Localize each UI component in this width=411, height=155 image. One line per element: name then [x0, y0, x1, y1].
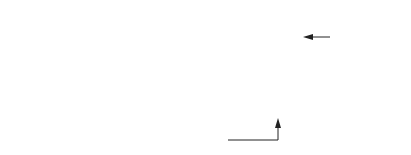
code-violation-arrow-icon: [228, 118, 281, 140]
diagram-canvas: [0, 0, 411, 155]
bit-startpoints-arrow-icon: [303, 34, 330, 40]
